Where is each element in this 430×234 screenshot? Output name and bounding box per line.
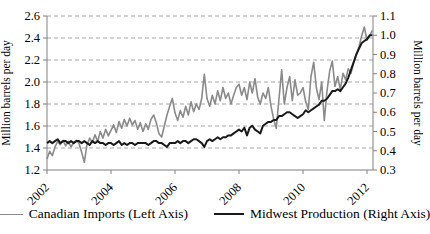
left-axis-tick-label: 1.2 <box>24 163 40 177</box>
gridlines <box>47 16 373 148</box>
axis-tick-labels: 1.21.41.61.82.02.22.42.60.30.40.50.60.70… <box>24 9 396 206</box>
legend-item-midwest-production: Midwest Production (Right Axis) <box>214 206 430 222</box>
legend: Canadian Imports (Left Axis) Midwest Pro… <box>0 206 423 222</box>
left-axis-tick-label: 1.8 <box>24 97 40 111</box>
right-axis-title: Million barrels per day <box>411 40 423 146</box>
series-line-1 <box>47 35 372 147</box>
x-axis-tick-label: 2012 <box>345 180 373 206</box>
left-axis-tick-label: 2.0 <box>24 75 40 89</box>
x-axis-tick-label: 2010 <box>281 180 309 206</box>
right-axis-tick-label: 0.4 <box>380 144 396 158</box>
left-axis-tick-label: 1.4 <box>24 141 40 155</box>
left-axis-tick-label: 2.6 <box>24 9 40 23</box>
right-axis-tick-label: 0.6 <box>380 105 396 119</box>
x-axis-tick-label: 2002 <box>25 180 53 206</box>
right-axis-tick-label: 1.0 <box>380 28 396 42</box>
right-axis-tick-label: 0.5 <box>380 125 396 139</box>
right-axis-tick-label: 0.3 <box>380 163 396 177</box>
left-axis-tick-label: 2.2 <box>24 53 40 67</box>
legend-label-canadian-imports: Canadian Imports (Left Axis) <box>29 206 188 222</box>
left-axis-title: Million barrels per day <box>0 40 13 146</box>
legend-item-canadian-imports: Canadian Imports (Left Axis) <box>0 206 188 222</box>
right-axis-tick-label: 0.9 <box>380 48 396 62</box>
right-axis-tick-label: 1.1 <box>380 9 396 23</box>
right-axis-tick-label: 0.7 <box>380 86 396 100</box>
canadian-imports-line-swatch <box>0 214 23 215</box>
right-axis-tick-label: 0.8 <box>380 67 396 81</box>
chart-plot-area: 1.21.41.61.82.02.22.42.60.30.40.50.60.70… <box>0 0 423 206</box>
x-axis-tick-label: 2004 <box>89 180 117 206</box>
data-series <box>47 27 372 162</box>
left-axis-tick-label: 2.4 <box>24 31 40 45</box>
x-axis-tick-label: 2006 <box>153 180 181 206</box>
legend-label-midwest-production: Midwest Production (Right Axis) <box>250 206 430 222</box>
x-axis-tick-label: 2008 <box>217 180 245 206</box>
midwest-production-line-swatch <box>214 213 244 215</box>
left-axis-tick-label: 1.6 <box>24 119 40 133</box>
